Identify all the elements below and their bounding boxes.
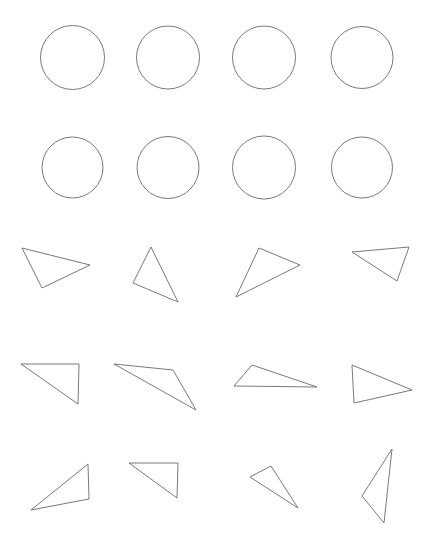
triangle-r4-c4 [352, 365, 412, 403]
circle-row-1 [41, 26, 394, 90]
triangle-r4-c2 [114, 364, 196, 410]
shape-grid-canvas [0, 0, 434, 554]
triangle-r4-c3 [234, 365, 317, 387]
triangle-r3-c4 [352, 247, 409, 281]
circle-r2-c3 [233, 136, 296, 199]
circle-r2-c2 [137, 137, 199, 199]
circle-r1-c1 [41, 26, 105, 90]
triangle-r3-c3 [236, 248, 300, 297]
triangle-r5-c1 [31, 464, 89, 510]
triangle-r5-c4 [362, 449, 392, 523]
circle-r2-c1 [42, 137, 103, 198]
triangle-row-4 [21, 364, 412, 410]
triangle-row-3 [22, 247, 409, 302]
triangle-r5-c3 [250, 466, 298, 508]
triangle-r3-c2 [133, 247, 178, 302]
circle-r1-c3 [233, 26, 296, 89]
circle-r2-c4 [332, 137, 393, 198]
circle-r1-c4 [331, 27, 393, 89]
triangle-r3-c1 [22, 248, 90, 288]
triangle-r4-c1 [21, 364, 79, 404]
shape-canvas-container [0, 0, 434, 554]
circle-row-2 [42, 136, 393, 199]
triangle-row-5 [31, 449, 392, 523]
circle-r1-c2 [137, 26, 200, 89]
triangle-r5-c2 [129, 463, 178, 498]
